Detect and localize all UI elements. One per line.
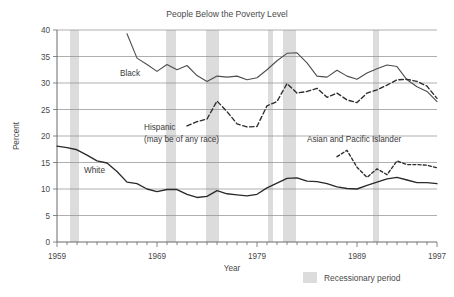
series-line-asian [337, 150, 437, 177]
chart-svg: People Below the Poverty Level 051015202… [0, 0, 454, 297]
y-tick-label-10: 10 [41, 185, 51, 194]
x-tick-label-1997: 1997 [428, 252, 447, 261]
chart-title: People Below the Poverty Level [166, 9, 287, 19]
y-tick-label-30: 30 [41, 79, 51, 88]
black-series-label: Black [120, 69, 141, 78]
y-tick-label-35: 35 [41, 53, 51, 62]
asian-series-label: Asian and Pacific Islander [307, 135, 401, 144]
x-axis-ticks-group: 19591969197919891997 [48, 242, 447, 261]
poverty-level-chart: People Below the Poverty Level 051015202… [0, 0, 454, 297]
y-tick-label-20: 20 [41, 132, 51, 141]
x-tick-label-1959: 1959 [48, 252, 67, 261]
x-tick-label-1989: 1989 [348, 252, 367, 261]
y-tick-label-5: 5 [45, 212, 50, 221]
y-axis-ticks-group: 0510152025303540 [41, 26, 57, 247]
white-series-label: White [84, 166, 105, 175]
data-series-group [57, 34, 437, 198]
y-axis-title: Percent [12, 121, 21, 150]
x-tick-label-1969: 1969 [148, 252, 167, 261]
y-tick-label-0: 0 [45, 238, 50, 247]
y-tick-label-40: 40 [41, 26, 51, 35]
hispanic-series-label-line2: (may be of any race) [144, 135, 219, 144]
x-tick-label-1979: 1979 [248, 252, 267, 261]
y-tick-label-25: 25 [41, 106, 51, 115]
x-axis-title: Year [224, 264, 241, 273]
hispanic-series-label-line1: Hispanic [144, 123, 175, 132]
legend-label-recession: Recessionary period [324, 273, 401, 283]
legend-swatch-recession [303, 272, 317, 283]
series-line-hispanic [187, 79, 437, 127]
gridlines-group [57, 30, 437, 216]
series-line-white [57, 146, 437, 197]
y-tick-label-15: 15 [41, 159, 51, 168]
